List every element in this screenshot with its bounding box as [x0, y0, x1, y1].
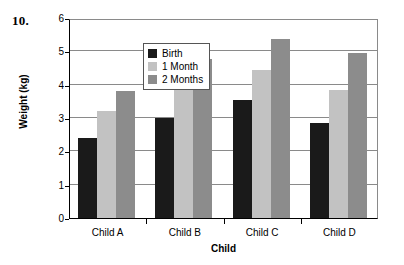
- x-tick-mark: [224, 219, 225, 224]
- legend-item[interactable]: 2 Months: [148, 73, 203, 86]
- y-tick-mark: [65, 119, 69, 120]
- x-tick-mark: [146, 219, 147, 224]
- y-tick-label: 5: [34, 47, 64, 57]
- x-tick-label: Child A: [68, 227, 148, 238]
- bar[interactable]: [78, 138, 97, 218]
- legend-label: 2 Months: [162, 75, 203, 85]
- bar-group: [310, 20, 367, 218]
- y-tick-label: 6: [34, 14, 64, 24]
- y-tick-mark: [65, 86, 69, 87]
- y-tick-label: 0: [34, 214, 64, 224]
- bar[interactable]: [310, 123, 329, 218]
- legend-item[interactable]: Birth: [148, 47, 203, 60]
- bar[interactable]: [97, 111, 116, 218]
- chart-legend: Birth1 Month2 Months: [143, 43, 210, 90]
- y-tick-mark: [65, 219, 69, 220]
- legend-item[interactable]: 1 Month: [148, 60, 203, 73]
- y-tick-mark: [65, 152, 69, 153]
- legend-label: Birth: [162, 49, 183, 59]
- legend-label: 1 Month: [162, 62, 198, 72]
- x-tick-label: Child D: [299, 227, 379, 238]
- x-axis-title: Child: [69, 243, 378, 254]
- bar[interactable]: [271, 39, 290, 218]
- y-tick-label: 3: [34, 114, 64, 124]
- plot-area: Birth1 Month2 Months: [69, 19, 378, 219]
- bar[interactable]: [233, 100, 252, 218]
- y-tick-label: 1: [34, 181, 64, 191]
- bar-group: [233, 20, 290, 218]
- x-tick-mark: [301, 219, 302, 224]
- y-tick-label: 4: [34, 81, 64, 91]
- bar[interactable]: [155, 118, 174, 218]
- bar[interactable]: [252, 70, 271, 218]
- bar[interactable]: [348, 53, 367, 218]
- bars-layer: [70, 20, 377, 218]
- bar-group: [78, 20, 135, 218]
- bar[interactable]: [329, 90, 348, 218]
- bar[interactable]: [174, 89, 193, 218]
- problem-number-label: 10.: [12, 14, 29, 27]
- y-axis-title: Weight (kg): [18, 62, 29, 142]
- legend-swatch-icon: [148, 49, 157, 58]
- legend-swatch-icon: [148, 75, 157, 84]
- x-tick-label: Child B: [145, 227, 225, 238]
- y-tick-label: 2: [34, 147, 64, 157]
- bar[interactable]: [116, 91, 135, 218]
- figure-container: 10. Weight (kg) Birth1 Month2 Months 012…: [0, 0, 404, 265]
- legend-swatch-icon: [148, 62, 157, 71]
- y-tick-mark: [65, 186, 69, 187]
- x-tick-label: Child C: [222, 227, 302, 238]
- y-tick-mark: [65, 52, 69, 53]
- y-tick-mark: [65, 19, 69, 20]
